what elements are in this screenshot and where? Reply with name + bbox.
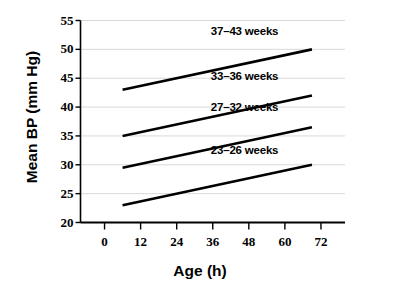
x-axis-title: Age (h) [80,262,320,280]
series-line [123,165,312,205]
x-tick-label: 36 [198,235,228,248]
series-label: 27–32 weeks [211,101,279,113]
y-tick-label: 35 [40,129,74,142]
x-tick-label: 72 [306,235,336,248]
y-tick-label: 25 [40,187,74,200]
y-tick-label: 30 [40,158,74,171]
y-tick-label: 45 [40,71,74,84]
x-tick-label: 12 [126,235,156,248]
series-label: 23–26 weeks [211,144,279,156]
y-axis-title: Mean BP (mm Hg) [23,17,41,217]
y-tick-label: 55 [40,14,74,27]
x-tick-label: 60 [270,235,300,248]
series-label: 33–36 weeks [211,70,279,82]
x-tick-label: 0 [90,235,120,248]
tick-marks-group [76,21,321,230]
chart-figure: 2025303540455055 0122436486072 37–43 wee… [0,0,398,295]
series-label: 37–43 weeks [211,25,279,37]
y-tick-label: 50 [40,42,74,55]
x-tick-label: 48 [234,235,264,248]
x-tick-label: 24 [162,235,192,248]
y-tick-label: 20 [40,216,74,229]
y-tick-label: 40 [40,100,74,113]
